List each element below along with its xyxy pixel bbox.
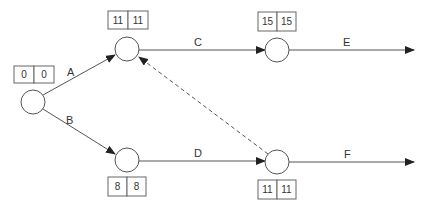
activity-d: D	[139, 147, 265, 161]
event-node-5: 11 11	[258, 150, 296, 199]
activity-f: F	[289, 148, 414, 162]
latest-time: 8	[134, 181, 140, 192]
event-node-1: 0 0	[14, 66, 54, 114]
activity-label-c: C	[194, 36, 202, 48]
activity-label-e: E	[343, 36, 350, 48]
activity-label-b: B	[66, 114, 73, 126]
earliest-time: 11	[113, 15, 124, 26]
earliest-time: 11	[262, 184, 273, 195]
latest-time: 15	[281, 16, 293, 27]
activity-label-d: D	[194, 147, 202, 159]
earliest-time: 0	[21, 69, 27, 80]
activity-b: B	[43, 109, 115, 154]
event-node-3: 8 8	[108, 148, 146, 196]
event-circle	[115, 37, 139, 61]
activity-label-f: F	[344, 148, 351, 160]
activity-c: C	[139, 36, 265, 50]
arrow-b	[43, 109, 115, 154]
latest-time: 0	[41, 69, 47, 80]
dummy-activity-arrow	[139, 57, 268, 154]
earliest-time: 15	[262, 16, 274, 27]
earliest-time: 8	[115, 181, 121, 192]
network-diagram: A B C D E F 0 0 11 11	[0, 0, 424, 212]
event-node-4: 15 15	[258, 12, 296, 62]
event-circle	[21, 90, 45, 114]
event-circle	[265, 38, 289, 62]
activity-e: E	[289, 36, 414, 50]
event-circle	[115, 148, 139, 172]
activity-label-a: A	[67, 66, 75, 78]
latest-time: 11	[133, 15, 144, 26]
latest-time: 11	[281, 184, 292, 195]
event-node-2: 11 11	[108, 11, 148, 61]
event-circle	[265, 150, 289, 174]
